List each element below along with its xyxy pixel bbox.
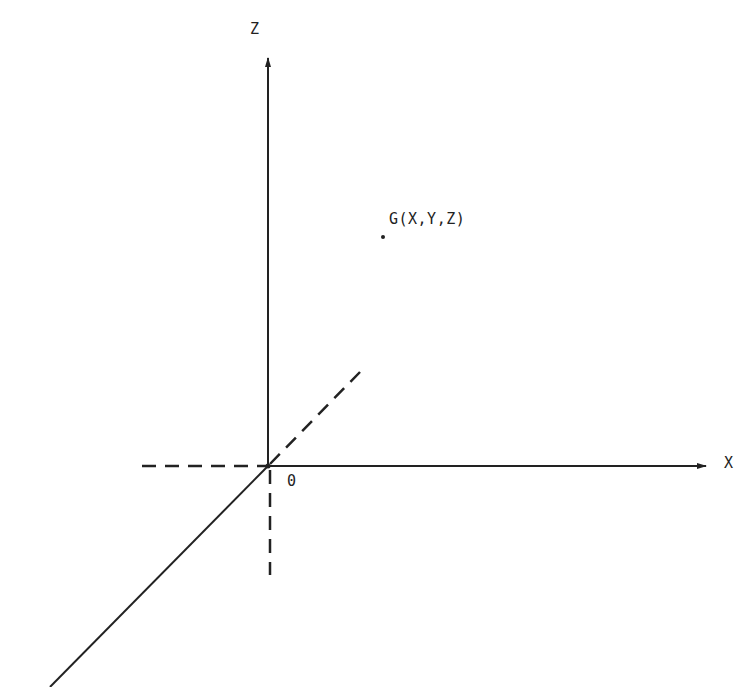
- z-axis-label: Z: [250, 22, 259, 37]
- y-axis: [50, 466, 268, 687]
- x-axis-label: X: [724, 456, 733, 471]
- coordinate-diagram: [0, 0, 734, 687]
- origin-marker: [266, 464, 271, 469]
- y-axis-negative-dashed: [270, 372, 360, 464]
- point-g-label: G(X,Y,Z): [389, 212, 465, 227]
- origin-label: 0: [287, 474, 296, 489]
- point-g-marker: [381, 235, 385, 239]
